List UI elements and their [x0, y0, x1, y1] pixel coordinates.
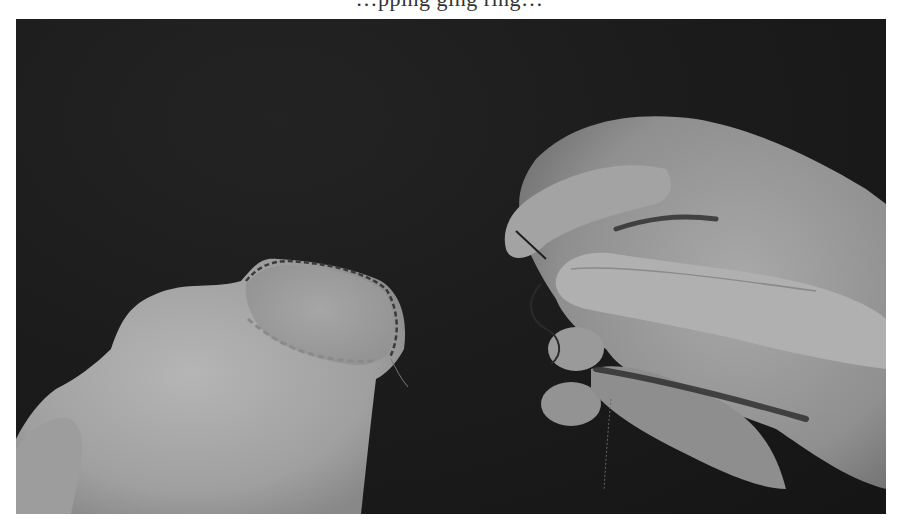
clipped-caption-text: …pping ging ring… [0, 0, 899, 12]
hand [505, 116, 886, 489]
fabric-piece [16, 259, 408, 514]
photo-illustration [16, 19, 886, 514]
thread-tail [604, 399, 611, 489]
sewing-photo [16, 19, 886, 514]
